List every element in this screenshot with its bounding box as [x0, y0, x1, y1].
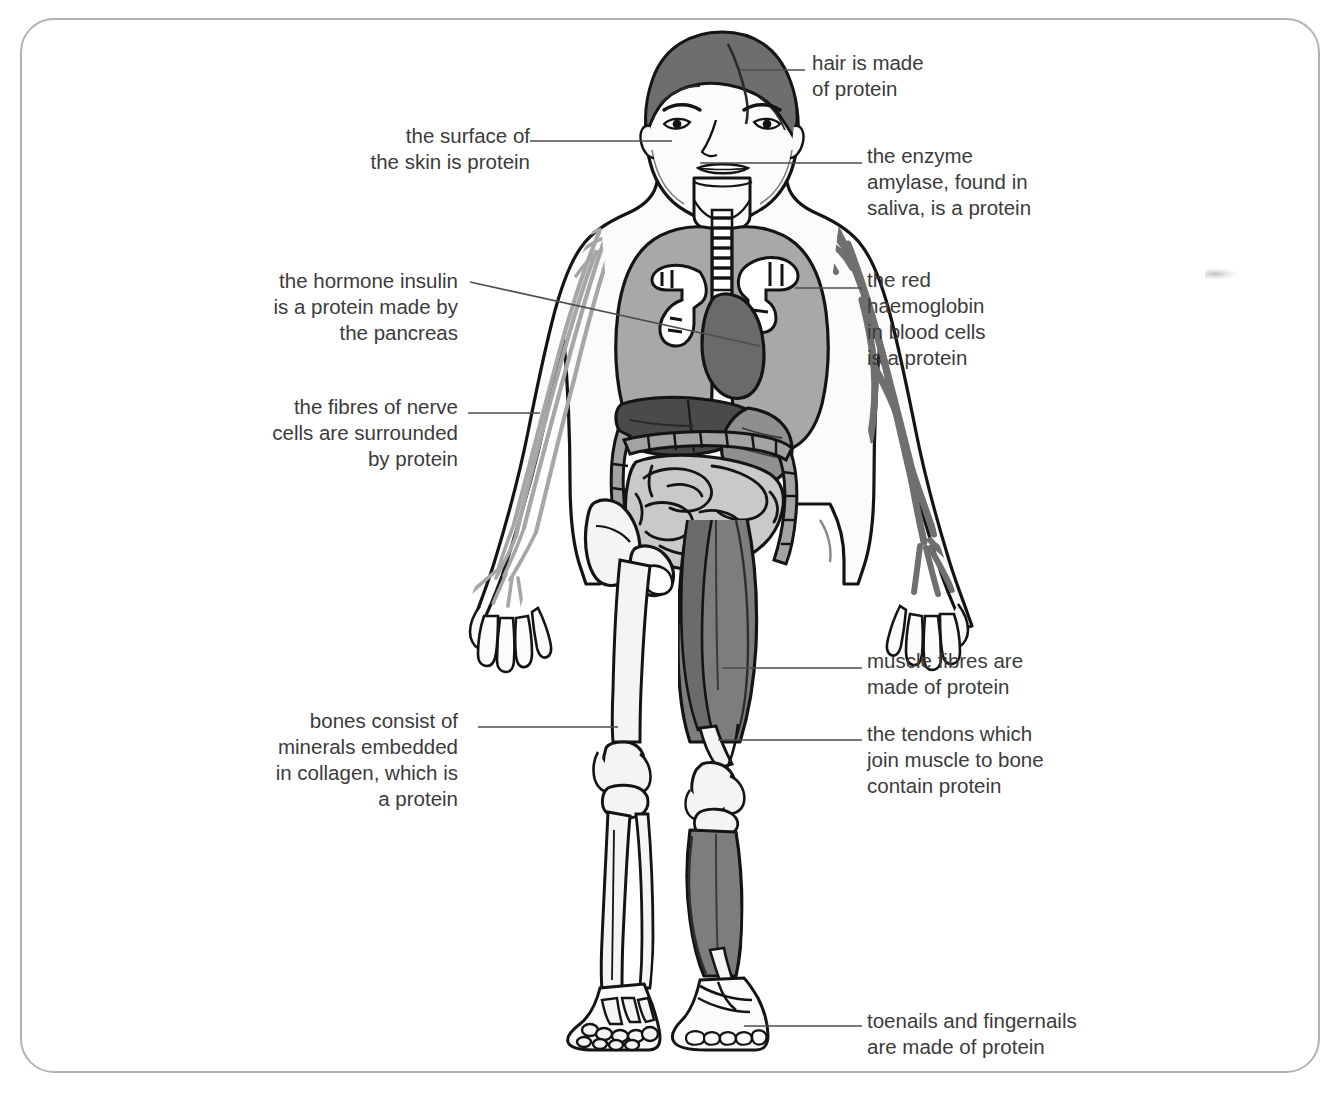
- callout-insulin-line-1: the hormone insulin: [279, 269, 458, 292]
- callout-nails-line-1: toenails and fingernails: [867, 1009, 1077, 1032]
- callout-amylase-line-1: the enzyme: [867, 144, 973, 167]
- human-body-illustration: [0, 0, 1343, 1093]
- foot-bones: [568, 984, 660, 1050]
- callout-nerve-line-2: cells are surrounded: [272, 421, 458, 444]
- callout-muscle-line-2: made of protein: [867, 675, 1009, 698]
- callout-insulin-line-2: is a protein made by: [273, 295, 458, 318]
- callout-haemoglobin-line-3: in blood cells: [867, 320, 986, 343]
- callout-amylase: the enzymeamylase, found insaliva, is a …: [867, 143, 1031, 221]
- callout-skin: the surface ofthe skin is protein: [370, 123, 530, 175]
- callout-insulin: the hormone insulinis a protein made byt…: [273, 268, 458, 346]
- callout-amylase-line-2: amylase, found in: [867, 170, 1028, 193]
- callout-skin-line-2: the skin is protein: [370, 150, 530, 173]
- leg-muscles: [678, 512, 757, 986]
- callout-hair-line-1: hair is made: [812, 51, 924, 74]
- callout-nails: toenails and fingernailsare made of prot…: [867, 1008, 1077, 1060]
- callout-tendons: the tendons whichjoin muscle to bonecont…: [867, 721, 1044, 799]
- callout-bones: bones consist ofminerals embeddedin coll…: [276, 708, 458, 812]
- callout-haemoglobin: the redhaemoglobinin blood cellsis a pro…: [867, 267, 986, 371]
- callout-nerve-line-1: the fibres of nerve: [294, 395, 458, 418]
- callout-bones-line-3: in collagen, which is: [276, 761, 458, 784]
- callout-tendons-line-2: join muscle to bone: [867, 748, 1044, 771]
- leg-bones: [594, 560, 654, 990]
- callout-insulin-line-3: the pancreas: [339, 321, 458, 344]
- callout-amylase-line-3: saliva, is a protein: [867, 196, 1031, 219]
- callout-nails-line-2: are made of protein: [867, 1035, 1045, 1058]
- callout-nerve-line-3: by protein: [368, 447, 458, 470]
- callout-tendons-line-3: contain protein: [867, 774, 1001, 797]
- callout-haemoglobin-line-2: haemoglobin: [867, 294, 984, 317]
- callout-tendons-line-1: the tendons which: [867, 722, 1032, 745]
- callout-bones-line-1: bones consist of: [310, 709, 458, 732]
- trachea: [712, 210, 732, 290]
- callout-muscle: muscle fibres aremade of protein: [867, 648, 1023, 700]
- toenails: [686, 1030, 766, 1044]
- callout-bones-line-2: minerals embedded: [278, 735, 458, 758]
- callout-skin-line-1: the surface of: [406, 124, 530, 147]
- callout-haemoglobin-line-1: the red: [867, 268, 931, 291]
- protein-diagram-figure: hair is madeof protein the surface ofthe…: [0, 0, 1343, 1093]
- callout-hair: hair is madeof protein: [812, 50, 924, 102]
- callout-bones-line-4: a protein: [378, 787, 458, 810]
- callout-haemoglobin-line-4: is a protein: [867, 346, 967, 369]
- right-foot: [672, 978, 768, 1050]
- callout-nerve: the fibres of nervecells are surroundedb…: [272, 394, 458, 472]
- callout-muscle-line-1: muscle fibres are: [867, 649, 1023, 672]
- callout-hair-line-2: of protein: [812, 77, 897, 100]
